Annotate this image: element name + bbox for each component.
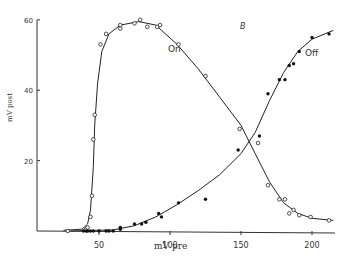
panel-label: B <box>240 22 246 31</box>
data-point-on <box>138 18 142 22</box>
data-point-on <box>119 23 123 27</box>
x-tick-label: 50 <box>94 241 104 250</box>
data-point-off <box>298 50 301 53</box>
curve-on <box>64 22 334 231</box>
data-point-off <box>292 62 295 65</box>
data-point-on <box>90 194 94 198</box>
data-point-off <box>288 64 291 67</box>
data-point-on <box>297 213 301 217</box>
series-label-on: On <box>168 44 181 54</box>
x-tick-label: 150 <box>233 241 248 250</box>
data-point-off <box>204 198 207 201</box>
data-point-off <box>133 222 136 225</box>
series-label-off: Off <box>305 48 318 58</box>
data-point-on <box>86 226 90 230</box>
data-point-on <box>204 74 208 78</box>
data-point-off <box>177 201 180 204</box>
data-point-on <box>93 113 97 117</box>
y-tick-label: 20 <box>24 158 33 166</box>
data-point-off <box>160 215 163 218</box>
data-point-off <box>157 212 160 215</box>
x-axis-label: mV pre <box>154 241 187 251</box>
data-point-off <box>112 229 115 232</box>
data-point-off <box>266 92 269 95</box>
data-point-off <box>258 134 261 137</box>
x-axis <box>37 231 335 233</box>
data-point-off <box>140 222 143 225</box>
data-point-on <box>256 141 260 145</box>
x-tick-label: 200 <box>304 241 319 250</box>
data-point-off <box>283 78 286 81</box>
data-point-off <box>107 229 110 232</box>
data-point-on <box>66 229 70 233</box>
curve-off <box>71 30 334 231</box>
data-point-on <box>89 215 93 219</box>
data-point-off <box>236 148 239 151</box>
data-point-on <box>266 183 270 187</box>
data-point-on <box>283 198 287 202</box>
data-point-on <box>119 27 123 31</box>
data-point-off <box>119 226 122 229</box>
data-point-on <box>99 43 103 47</box>
y-tick-label: 40 <box>24 87 33 95</box>
data-point-on <box>92 138 96 142</box>
data-point-off <box>97 229 100 232</box>
data-point-off <box>310 36 313 39</box>
data-point-on <box>238 127 242 131</box>
chart-plot: 50100150200204060 <box>0 0 351 273</box>
data-point-on <box>309 215 313 219</box>
data-point-off <box>327 32 330 35</box>
data-point-on <box>104 32 108 36</box>
y-tick-label: 60 <box>24 17 33 25</box>
data-point-off <box>92 229 95 232</box>
data-point-on <box>287 212 291 216</box>
data-point-on <box>327 219 331 223</box>
data-point-on <box>278 198 282 202</box>
y-axis-label: mV post <box>6 93 14 122</box>
data-point-on <box>158 23 162 27</box>
data-point-on <box>133 22 137 26</box>
data-point-off <box>144 221 147 224</box>
data-point-on <box>292 208 296 212</box>
data-point-on <box>145 25 149 29</box>
data-point-off <box>278 78 281 81</box>
